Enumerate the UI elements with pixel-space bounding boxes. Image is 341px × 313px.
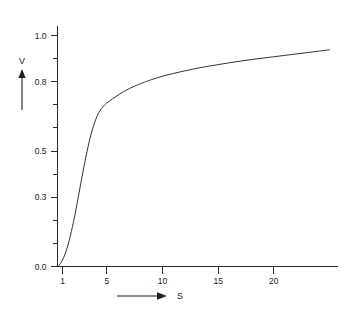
x-axis-title: S bbox=[177, 291, 183, 301]
y-axis-tick-label: 0.0 bbox=[35, 262, 47, 272]
x-axis-tick-label: 5 bbox=[105, 276, 110, 286]
y-axis-tick-label: 1.0 bbox=[35, 31, 47, 41]
y-axis-tick-label: 0.8 bbox=[35, 77, 47, 87]
y-axis-tick-label: 0.3 bbox=[35, 192, 47, 202]
x-axis-tick-label: 20 bbox=[269, 276, 279, 286]
chart-figure: 0.00.30.50.81.0 15101520 V S bbox=[0, 0, 341, 313]
x-axis-tick-label: 10 bbox=[158, 276, 168, 286]
y-axis-title: V bbox=[19, 56, 25, 66]
chart-svg: 0.00.30.50.81.0 15101520 V S bbox=[0, 0, 341, 313]
x-axis-tick-label: 1 bbox=[60, 276, 65, 286]
x-axis-tick-label: 15 bbox=[213, 276, 223, 286]
y-axis-tick-label: 0.5 bbox=[35, 146, 47, 156]
